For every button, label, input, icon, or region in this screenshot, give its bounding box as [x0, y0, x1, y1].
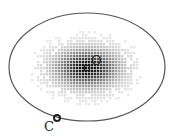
diagram-canvas: [0, 0, 176, 139]
density-cloud: [31, 31, 141, 105]
point-o-label: O: [91, 54, 102, 67]
point-c-marker: [54, 115, 60, 121]
point-c-label: C: [44, 120, 54, 133]
